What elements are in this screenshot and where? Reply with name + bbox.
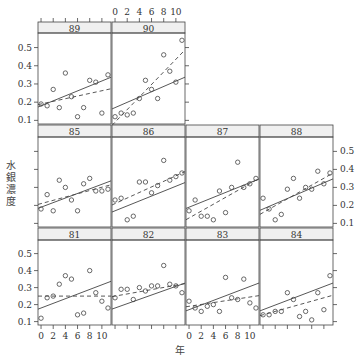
data-point xyxy=(75,209,79,213)
data-point xyxy=(100,111,104,115)
data-point xyxy=(94,189,98,193)
svg-text:0: 0 xyxy=(112,7,118,17)
data-point xyxy=(113,115,117,119)
data-point xyxy=(149,191,153,195)
data-point xyxy=(69,277,73,281)
svg-text:0.2: 0.2 xyxy=(18,300,32,310)
data-point xyxy=(75,115,79,119)
data-point xyxy=(310,318,314,322)
data-point xyxy=(149,284,153,288)
data-point xyxy=(279,212,283,216)
data-point xyxy=(88,78,92,82)
data-point xyxy=(162,53,166,57)
data-point xyxy=(242,277,246,281)
data-point xyxy=(174,174,178,178)
data-point xyxy=(106,73,110,77)
data-point xyxy=(137,180,141,184)
fit-line-solid xyxy=(38,77,111,107)
y-label-char: 濃 xyxy=(4,184,18,196)
data-point xyxy=(168,282,172,286)
svg-text:0.2: 0.2 xyxy=(18,97,32,107)
svg-text:0.5: 0.5 xyxy=(18,249,33,259)
panel-87: 87 xyxy=(186,125,259,227)
data-point xyxy=(291,176,295,180)
data-point xyxy=(187,209,191,213)
svg-text:0: 0 xyxy=(38,331,44,341)
panel-strip-label: 86 xyxy=(143,127,155,137)
y-label-char: 水 xyxy=(4,160,18,172)
data-point xyxy=(81,311,85,315)
svg-text:2: 2 xyxy=(124,7,130,17)
data-point xyxy=(143,289,147,293)
data-point xyxy=(322,308,326,312)
data-point xyxy=(51,209,55,213)
data-point xyxy=(180,171,184,175)
data-point xyxy=(69,198,73,202)
data-point xyxy=(303,309,307,313)
data-point xyxy=(205,304,209,308)
data-point xyxy=(211,218,215,222)
svg-text:10: 10 xyxy=(96,331,108,341)
data-point xyxy=(285,291,289,295)
data-point xyxy=(285,187,289,191)
svg-text:4: 4 xyxy=(137,7,143,17)
data-point xyxy=(63,274,67,278)
panel-86: 86 xyxy=(112,125,185,227)
y-axis-label: 水 銀 濃 度 xyxy=(4,160,18,208)
data-point xyxy=(88,176,92,180)
svg-text:6: 6 xyxy=(223,331,229,341)
data-point xyxy=(162,158,166,162)
data-point xyxy=(273,218,277,222)
svg-text:0.2: 0.2 xyxy=(340,200,354,210)
panel-strip-label: 89 xyxy=(69,24,81,34)
fit-line-dashed xyxy=(260,295,333,315)
data-point xyxy=(187,299,191,303)
data-point xyxy=(155,96,159,100)
data-point xyxy=(205,214,209,218)
data-point xyxy=(131,111,135,115)
svg-text:6: 6 xyxy=(75,331,81,341)
data-point xyxy=(211,302,215,306)
data-point xyxy=(39,316,43,320)
data-point xyxy=(75,313,79,317)
fit-line-solid xyxy=(260,283,333,311)
data-point xyxy=(119,287,123,291)
fit-line-solid xyxy=(38,281,111,309)
panel-strip-label: 87 xyxy=(217,127,229,137)
panel-strip-label: 88 xyxy=(291,127,303,137)
data-point xyxy=(137,285,141,289)
svg-text:4: 4 xyxy=(211,331,217,341)
panel-strip-label: 82 xyxy=(143,230,154,240)
svg-text:2: 2 xyxy=(198,331,204,341)
data-point xyxy=(57,105,61,109)
data-point xyxy=(180,38,184,42)
data-point xyxy=(63,185,67,189)
data-point xyxy=(81,105,85,109)
data-point xyxy=(94,291,98,295)
svg-text:0.5: 0.5 xyxy=(18,43,33,53)
svg-text:4: 4 xyxy=(63,331,69,341)
trellis-scatter-chart: 899085868788818283840.10.20.30.40.50.10.… xyxy=(0,0,359,363)
panel-88: 88 xyxy=(260,125,333,227)
data-point xyxy=(155,284,159,288)
data-point xyxy=(199,214,203,218)
svg-text:6: 6 xyxy=(149,7,155,17)
svg-text:0.3: 0.3 xyxy=(18,283,33,293)
data-point xyxy=(106,306,110,310)
data-point xyxy=(143,180,147,184)
data-point xyxy=(217,189,221,193)
panel-84: 84 xyxy=(260,228,333,325)
data-point xyxy=(57,282,61,286)
svg-text:0.4: 0.4 xyxy=(340,164,355,174)
data-point xyxy=(168,69,172,73)
svg-text:8: 8 xyxy=(87,331,93,341)
y-label-char: 銀 xyxy=(4,172,18,184)
data-point xyxy=(149,87,153,91)
x-axis-label: 年 xyxy=(0,342,359,357)
panel-89: 89 xyxy=(38,22,111,124)
svg-text:8: 8 xyxy=(161,7,167,17)
svg-text:0.4: 0.4 xyxy=(18,61,33,71)
data-point xyxy=(261,196,265,200)
data-point xyxy=(193,198,197,202)
data-point xyxy=(316,291,320,295)
